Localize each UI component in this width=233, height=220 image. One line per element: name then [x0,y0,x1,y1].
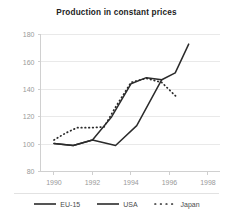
y-tick-label-140: 140 [23,86,35,93]
series-line-eu-15 [54,78,162,146]
legend-item-usa: USA [96,200,137,208]
y-tick-label-100: 100 [23,141,35,148]
legend-item-japan: Japan [154,200,200,208]
legend-item-eu15: EU-15 [33,200,80,208]
gridlines [38,35,220,172]
legend-label-usa: USA [123,201,137,208]
series-line-usa [54,44,189,145]
chart-container: Production in constant prices 8010012014… [0,0,233,220]
x-axis-tick-labels: 19901992199419961998 [46,179,216,186]
legend-label-eu15: EU-15 [60,201,80,208]
legend-swatch-solid-icon [96,200,120,208]
data-series [54,44,189,145]
legend-swatch-dotted-icon [154,200,178,208]
x-tick-label-1992: 1992 [85,179,101,186]
y-axis-tick-labels: 80100120140160180 [23,31,35,175]
x-tick-label-1994: 1994 [123,179,139,186]
y-tick-label-120: 120 [23,113,35,120]
y-tick-label-80: 80 [27,168,35,175]
plot-area: 80100120140160180 19901992199419961998 [0,0,233,195]
x-tick-label-1998: 1998 [200,179,216,186]
legend-divider [14,193,219,194]
y-tick-label-160: 160 [23,59,35,66]
legend-swatch-solid-icon [33,200,57,208]
x-axis [41,35,220,175]
x-tick-label-1996: 1996 [162,179,178,186]
y-tick-label-180: 180 [23,31,35,38]
chart-legend: EU-15 USA Japan [0,193,233,215]
x-tick-label-1990: 1990 [46,179,62,186]
legend-label-japan: Japan [181,201,200,208]
